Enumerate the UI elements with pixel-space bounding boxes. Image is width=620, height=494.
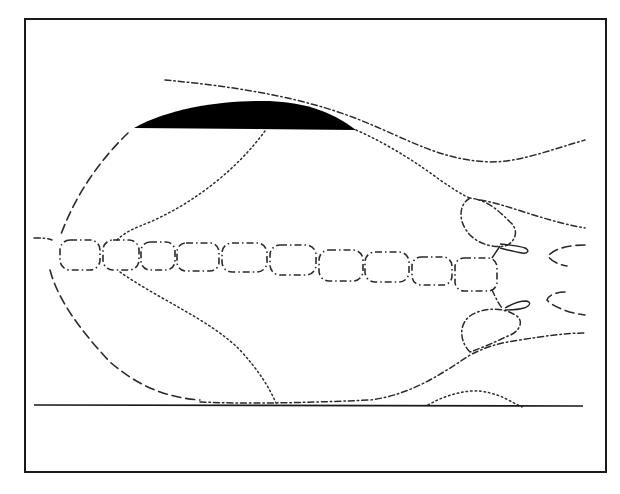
lower-small-loop bbox=[505, 301, 530, 310]
baseline bbox=[34, 405, 583, 406]
cell-7 bbox=[319, 250, 363, 281]
lower-outline-curve bbox=[200, 333, 585, 403]
cell-9 bbox=[412, 257, 452, 285]
cell-4 bbox=[177, 243, 219, 271]
upper-right-lobe bbox=[461, 198, 515, 247]
base-bump bbox=[428, 391, 522, 407]
cell-10 bbox=[455, 258, 497, 291]
figure-caption bbox=[24, 486, 608, 494]
upper-connector bbox=[492, 246, 500, 258]
upper-inner-curve bbox=[356, 130, 470, 198]
upper-small-loop bbox=[500, 244, 528, 253]
lower-open-arc bbox=[547, 292, 585, 315]
cap-to-chain-curve bbox=[117, 131, 265, 240]
lower-right-lobe bbox=[462, 309, 521, 352]
cell-6 bbox=[270, 245, 316, 275]
cell-3 bbox=[141, 242, 175, 270]
chain-to-base-curve bbox=[120, 272, 276, 403]
upper-right-lobe-tail bbox=[480, 200, 585, 228]
left-outer-curve bbox=[60, 133, 128, 237]
cell-chain bbox=[60, 240, 497, 291]
cell-2 bbox=[103, 240, 139, 270]
cell-5 bbox=[222, 243, 267, 272]
diagram-canvas bbox=[0, 0, 620, 494]
cell-1 bbox=[60, 240, 100, 270]
black-cap bbox=[134, 101, 356, 130]
left-lower-curve bbox=[50, 270, 200, 400]
cell-8 bbox=[365, 252, 409, 282]
upper-open-arc bbox=[548, 245, 585, 266]
left-stub bbox=[34, 238, 52, 240]
lower-connector bbox=[492, 290, 502, 308]
